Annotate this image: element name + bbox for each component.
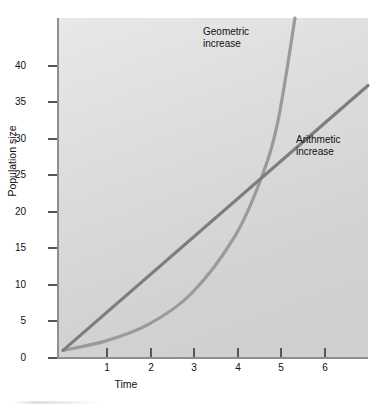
chart-curves (0, 0, 372, 410)
x-axis-title: Time (0, 378, 372, 390)
geometric-increase-label: Geometric increase (203, 26, 249, 50)
arithmetic-increase-line (63, 86, 368, 351)
geometric-increase-curve (63, 18, 295, 350)
x-axis-title-text: Time (115, 378, 138, 390)
arithmetic-increase-label: Arithmetic increase (296, 134, 340, 158)
scan-artifact (14, 401, 100, 404)
y-axis-title: Population size (6, 101, 18, 221)
figure-container: 0 5 10 15 20 25 30 35 40 1 2 3 4 5 6 (0, 0, 372, 410)
